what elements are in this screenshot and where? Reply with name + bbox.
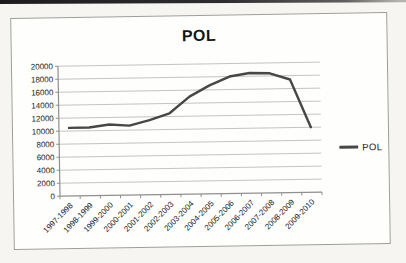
y-gridline xyxy=(58,62,320,66)
y-gridline xyxy=(59,153,321,157)
y-axis-label: 10000 xyxy=(32,127,55,136)
y-axis-label: 20000 xyxy=(31,62,54,71)
y-gridline xyxy=(59,114,321,118)
y-gridline xyxy=(59,127,321,131)
legend: POL xyxy=(339,141,382,153)
y-axis-label: 8000 xyxy=(36,140,54,149)
y-gridline xyxy=(59,140,321,144)
y-axis-label: 0 xyxy=(50,192,55,201)
y-axis-label: 4000 xyxy=(37,166,55,175)
scan-artifact-top-bar xyxy=(0,0,406,4)
y-axis-label: 18000 xyxy=(31,75,54,84)
legend-series-label: POL xyxy=(362,141,382,152)
y-axis-label: 6000 xyxy=(37,153,55,162)
plot-area: 0200040006000800010000120001400016000180… xyxy=(11,13,392,251)
y-axis-label: 14000 xyxy=(31,101,54,110)
chart-container: POL 020004000600080001000012000140001600… xyxy=(10,12,391,250)
y-gridline xyxy=(58,88,320,92)
y-axis-label: 2000 xyxy=(37,179,55,188)
y-gridline xyxy=(60,166,322,170)
y-gridline xyxy=(60,179,322,183)
y-axis-label: 16000 xyxy=(31,88,54,97)
legend-line-sample-icon xyxy=(339,146,358,149)
x-axis-line xyxy=(60,192,322,196)
y-gridline xyxy=(59,101,321,105)
y-axis-label: 12000 xyxy=(31,114,54,123)
